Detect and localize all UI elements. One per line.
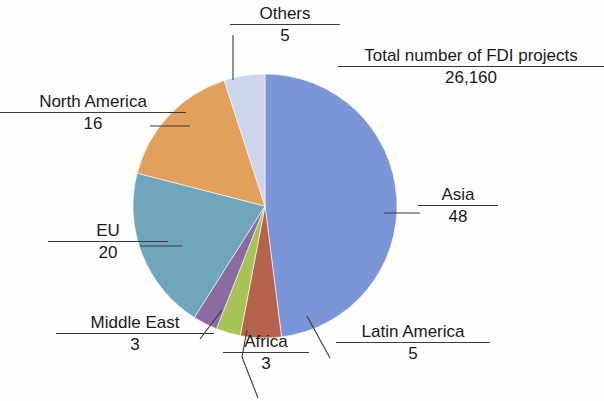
callout-latin-america-label: Latin America	[336, 322, 490, 342]
callout-others: Others 5	[230, 4, 340, 45]
callout-north-america: North America 16	[0, 92, 186, 133]
callout-others-value: 5	[230, 25, 340, 45]
callout-africa-value: 3	[223, 353, 309, 373]
callout-total-projects-label: Total number of FDI projects	[338, 46, 604, 66]
callout-others-label: Others	[230, 4, 340, 24]
callout-asia-label: Asia	[418, 185, 498, 205]
callout-latin-america-value: 5	[336, 343, 490, 363]
pie-slice-asia	[265, 74, 397, 337]
figure-canvas: Total number of FDI projects 26,160 Asia…	[0, 0, 604, 401]
callout-middle-east: Middle East 3	[56, 313, 214, 354]
callout-north-america-label: North America	[0, 92, 186, 112]
callout-asia: Asia 48	[418, 185, 498, 226]
callout-eu-label: EU	[48, 221, 168, 241]
callout-asia-value: 48	[418, 206, 498, 226]
callout-north-america-value: 16	[0, 113, 186, 133]
callout-middle-east-label: Middle East	[56, 313, 214, 333]
callout-middle-east-value: 3	[56, 334, 214, 354]
callout-eu: EU 20	[48, 221, 168, 262]
callout-total-projects: Total number of FDI projects 26,160	[338, 46, 604, 87]
callout-eu-value: 20	[48, 242, 168, 262]
callout-africa-label: Africa	[223, 332, 309, 352]
callout-total-projects-value: 26,160	[338, 67, 604, 87]
callout-latin-america: Latin America 5	[336, 322, 490, 363]
callout-africa: Africa 3	[223, 332, 309, 373]
